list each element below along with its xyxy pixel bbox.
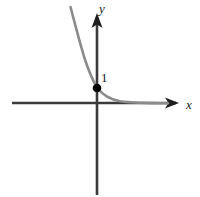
y-intercept-value-label: 1 <box>101 71 108 84</box>
plot-canvas <box>0 0 200 197</box>
exponential-decay-curve <box>71 7 169 103</box>
x-axis-label: x <box>186 98 192 111</box>
y-intercept-point <box>93 84 102 93</box>
y-axis-label: y <box>99 2 105 15</box>
exponential-decay-graph-figure: y x 1 <box>0 0 200 197</box>
